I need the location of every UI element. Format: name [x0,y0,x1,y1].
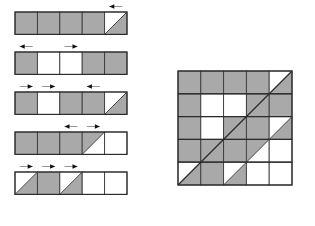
strip-2-cell-5-gray-cell [105,52,127,74]
strip-2-arrow-2-right-head [73,44,78,48]
strip-4-arrow-2-right-head [95,124,100,128]
square-r1-c1-gray-cell [178,71,201,94]
square-r5-c5-empty-cell [269,162,292,185]
figure-canvas [0,0,315,226]
square-r1-c2-gray-cell [201,71,224,94]
square-r2-c5-gray-cell [269,94,292,117]
strip-4-cell-2-gray-cell [37,132,59,154]
square-r2-c1-gray-cell [178,94,201,117]
square-r2-c2-empty-cell [201,94,224,117]
square-r5-c4-empty-cell [246,162,269,185]
strip-5-arrow-1-right-head [28,164,33,168]
square-r5-c2-gray-cell [201,162,224,185]
strip-4-cell-1-gray-cell [15,132,37,154]
strip-3-arrow-2-right-head [50,84,55,88]
strip-4-arrow-1-left-head [65,124,70,128]
strip-5-arrow-3-right-head [73,164,78,168]
strip-1-cell-1-gray-cell [15,12,37,34]
dissection-figure [0,0,315,226]
strip-1-cell-2-gray-cell [37,12,59,34]
strip-3-arrow-1-right-head [28,84,33,88]
strip-3-cell-1-gray-cell [15,92,37,114]
strip-4 [15,124,127,154]
strip-1 [15,4,127,34]
strip-2-cell-4-gray-cell [82,52,104,74]
strip-4-cell-3-gray-cell [60,132,82,154]
square-r3-c4-gray-cell [246,117,269,140]
strip-5-cell-5-empty-cell [105,172,127,194]
square-r1-c3-gray-cell [224,71,247,94]
strip-2 [15,44,127,74]
square-r3-c2-empty-cell [201,117,224,140]
strip-1-cell-3-gray-cell [60,12,82,34]
square-r4-c3-gray-cell [224,139,247,162]
assembled-square [178,71,292,185]
strip-1-cell-4-gray-cell [82,12,104,34]
strip-3-cell-3-gray-cell [60,92,82,114]
square-r2-c3-empty-cell [224,94,247,117]
square-r4-c5-empty-cell [269,139,292,162]
strip-2-cell-3-empty-cell [60,52,82,74]
strip-4-cell-5-empty-cell [105,132,127,154]
strip-1-arrow-1-left-head [109,4,114,8]
strip-3-cell-2-empty-cell [37,92,59,114]
strip-5-arrow-2-right-head [50,164,55,168]
strip-3 [15,84,127,114]
strip-3-cell-4-gray-cell [82,92,104,114]
strip-5-cell-2-gray-cell [37,172,59,194]
square-r1-c4-gray-cell [246,71,269,94]
strip-2-cell-2-empty-cell [37,52,59,74]
strip-2-arrow-1-left-head [20,44,25,48]
strip-2-cell-1-gray-cell [15,52,37,74]
square-r4-c1-gray-cell [178,139,201,162]
strip-5-cell-4-empty-cell [82,172,104,194]
strip-3-arrow-3-left-head [87,84,92,88]
strip-5 [15,164,127,194]
square-r3-c1-gray-cell [178,117,201,140]
